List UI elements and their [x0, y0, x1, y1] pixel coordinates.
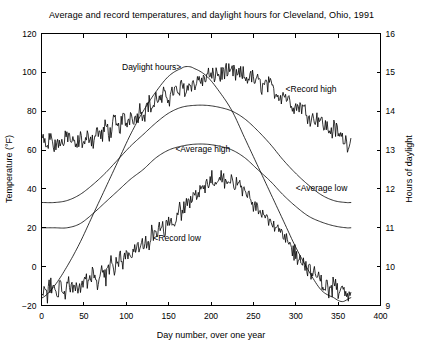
y2-tick-label: 11 [386, 223, 395, 233]
x-tick-label: 100 [119, 311, 133, 321]
x-tick-label: 300 [289, 311, 303, 321]
y2-tick-label: 13 [386, 145, 396, 155]
y-axis-right-ticks: 910111213141516 [377, 29, 396, 311]
y2-tick-label: 16 [386, 29, 396, 39]
y-tick-label: 40 [27, 184, 37, 194]
x-tick-label: 150 [162, 311, 176, 321]
y-tick-label: 80 [27, 106, 37, 116]
y-axis-right-label: Hours of daylight [404, 135, 414, 203]
y2-tick-label: 12 [386, 184, 396, 194]
annotation-average-high: <Average high [175, 144, 230, 154]
y-tick-label: 20 [27, 223, 37, 233]
y2-tick-label: 14 [386, 106, 396, 116]
y-tick-label: 60 [27, 145, 37, 155]
chart-figure: Average and record temperatures, and day… [0, 0, 423, 345]
x-tick-label: 250 [246, 311, 260, 321]
x-tick-label: 0 [39, 311, 44, 321]
x-axis-label: Day number, over one year [157, 330, 266, 340]
chart-plot-area: 050100150200250300350400 −20020406080100… [0, 0, 423, 345]
y-tick-label: 120 [22, 29, 36, 39]
y2-tick-label: 9 [386, 301, 391, 311]
annotation-average-low: <Average low [296, 183, 348, 193]
x-tick-label: 50 [79, 311, 89, 321]
y2-tick-label: 15 [386, 67, 396, 77]
annotation-record-high: <Record high [286, 84, 337, 94]
annotations-group: Daylight hours><Record high<Average high… [122, 62, 348, 243]
annotation-daylight-hours: Daylight hours> [122, 62, 181, 72]
y-tick-label: 100 [22, 67, 36, 77]
x-tick-label: 200 [204, 311, 218, 321]
y2-tick-label: 10 [386, 262, 396, 272]
x-tick-label: 350 [331, 311, 345, 321]
y-axis-left-label: Temperature (°F) [4, 135, 14, 203]
series-line-record-high [42, 63, 350, 152]
y-tick-label: 0 [32, 262, 37, 272]
y-tick-label: −20 [22, 301, 37, 311]
x-tick-label: 400 [373, 311, 387, 321]
annotation-record-low: <Record low [153, 233, 201, 243]
